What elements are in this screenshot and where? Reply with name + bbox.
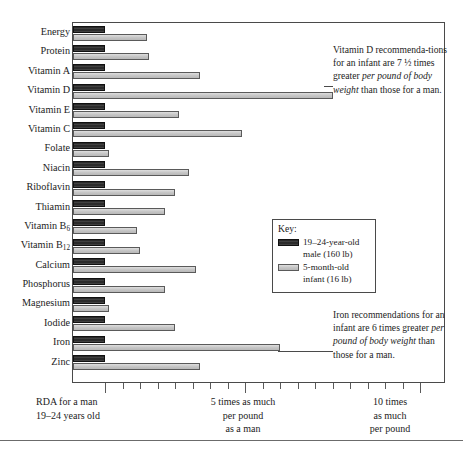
bar-male bbox=[73, 258, 105, 265]
x-axis-caption-line: per pound bbox=[330, 422, 450, 436]
rda-comparison-figure: EnergyProteinVitamin AVitamin DVitamin E… bbox=[0, 0, 463, 449]
x-tick bbox=[245, 383, 246, 393]
bar-infant bbox=[73, 266, 196, 273]
bar-male bbox=[73, 297, 105, 304]
x-tick bbox=[140, 383, 141, 389]
x-tick bbox=[385, 383, 386, 389]
category-label-niacin: Niacin bbox=[0, 161, 70, 174]
x-axis-caption-line: 10 times bbox=[330, 395, 450, 409]
category-label-thiamin: Thiamin bbox=[0, 200, 70, 213]
x-tick bbox=[403, 383, 404, 389]
bar-male bbox=[73, 64, 105, 71]
category-label-iron: Iron bbox=[0, 335, 70, 348]
legend-title: Key: bbox=[278, 223, 370, 235]
x-tick bbox=[123, 383, 124, 389]
bar-infant bbox=[73, 286, 165, 293]
bar-infant bbox=[73, 34, 147, 41]
bar-male bbox=[73, 181, 105, 188]
bar-male bbox=[73, 84, 105, 91]
legend-swatch-infant-icon bbox=[278, 264, 299, 271]
x-tick bbox=[280, 383, 281, 389]
bar-row: Niacin bbox=[0, 160, 463, 179]
x-tick bbox=[175, 383, 176, 389]
legend-entry-male: 19–24-year-old male (160 lb) bbox=[278, 237, 370, 260]
bar-male bbox=[73, 45, 105, 52]
x-tick bbox=[105, 383, 106, 393]
category-label-zinc: Zinc bbox=[0, 355, 70, 368]
x-axis-caption-1x: RDA for a man19–24 years old bbox=[36, 395, 100, 422]
legend-box: Key: 19–24-year-old male (160 lb) 5-mont… bbox=[272, 219, 376, 293]
bar-infant bbox=[73, 189, 175, 196]
bar-male bbox=[73, 278, 105, 285]
bar-infant bbox=[73, 324, 175, 331]
category-label-vitamin-d: Vitamin D bbox=[0, 83, 70, 96]
x-tick bbox=[350, 383, 351, 389]
x-axis bbox=[72, 383, 445, 393]
x-axis-caption-line: as a man bbox=[148, 422, 338, 436]
category-label-vitamin-b6: Vitamin B6 bbox=[0, 219, 70, 234]
legend-entry-infant: 5-month-old infant (16 lb) bbox=[278, 262, 370, 285]
x-axis-caption-5x: 5 times as muchper poundas a man bbox=[148, 395, 338, 436]
category-label-folate: Folate bbox=[0, 141, 70, 154]
x-axis-caption-line: 19–24 years old bbox=[36, 409, 100, 423]
category-label-protein: Protein bbox=[0, 44, 70, 57]
annotation-leader-iron bbox=[278, 351, 333, 352]
annotation-segment: than those for a man. bbox=[359, 84, 442, 95]
bar-male bbox=[73, 103, 105, 110]
x-tick bbox=[333, 383, 334, 389]
bar-infant bbox=[73, 150, 109, 157]
bar-infant bbox=[73, 344, 280, 351]
x-axis-caption-line: 5 times as much bbox=[148, 395, 338, 409]
legend-swatch-male-icon bbox=[278, 239, 299, 246]
bar-infant bbox=[73, 111, 179, 118]
category-label-vitamin-c: Vitamin C bbox=[0, 122, 70, 135]
x-tick bbox=[228, 383, 229, 389]
bar-infant bbox=[73, 305, 109, 312]
bar-infant bbox=[73, 363, 200, 370]
bar-row: Vitamin B6 bbox=[0, 218, 463, 237]
bar-infant bbox=[73, 247, 140, 254]
x-tick bbox=[368, 383, 369, 389]
bar-row: Calcium bbox=[0, 257, 463, 276]
x-tick bbox=[315, 383, 316, 389]
bar-male bbox=[73, 142, 105, 149]
bar-infant bbox=[73, 208, 165, 215]
legend-label-infant-line2: infant (16 lb) bbox=[303, 274, 351, 284]
category-label-vitamin-a: Vitamin A bbox=[0, 64, 70, 77]
bar-male bbox=[73, 355, 105, 362]
x-tick bbox=[158, 383, 159, 389]
bar-infant bbox=[73, 130, 242, 137]
x-axis-caption-10x: 10 timesas muchper pound bbox=[330, 395, 450, 436]
x-tick bbox=[263, 383, 264, 389]
category-label-phosphorus: Phosphorus bbox=[0, 277, 70, 290]
legend-label-infant-line1: 5-month-old bbox=[303, 262, 349, 272]
bar-male bbox=[73, 122, 105, 129]
bar-row: Folate bbox=[0, 140, 463, 159]
bar-row: Riboflavin bbox=[0, 179, 463, 198]
x-tick bbox=[210, 383, 211, 389]
x-tick bbox=[420, 383, 421, 393]
bar-infant bbox=[73, 227, 137, 234]
bar-row: Phosphorus bbox=[0, 276, 463, 295]
legend-label-male-line2: male (160 lb) bbox=[303, 249, 353, 259]
bar-infant bbox=[73, 72, 200, 79]
bar-infant bbox=[73, 92, 333, 99]
bar-row: Energy bbox=[0, 24, 463, 43]
bar-male bbox=[73, 26, 105, 33]
bar-male bbox=[73, 316, 105, 323]
bar-male bbox=[73, 239, 105, 246]
annotation-iron: Iron recommendations for an infant are 6… bbox=[333, 308, 455, 361]
annotation-vitamin-d: Vitamin D recommenda-tions for an infant… bbox=[333, 43, 455, 96]
bar-infant bbox=[73, 169, 189, 176]
bar-infant bbox=[73, 53, 149, 60]
bar-row: Thiamin bbox=[0, 199, 463, 218]
legend-label-male-line1: 19–24-year-old bbox=[303, 237, 359, 247]
x-axis-caption-line: as much bbox=[330, 409, 450, 423]
bar-row: Vitamin E bbox=[0, 102, 463, 121]
category-label-calcium: Calcium bbox=[0, 258, 70, 271]
x-axis-caption-line: RDA for a man bbox=[36, 395, 100, 409]
annotation-leader-vitamin-d bbox=[324, 86, 333, 87]
bar-male bbox=[73, 219, 105, 226]
bar-male bbox=[73, 161, 105, 168]
category-label-magnesium: Magnesium bbox=[0, 296, 70, 309]
